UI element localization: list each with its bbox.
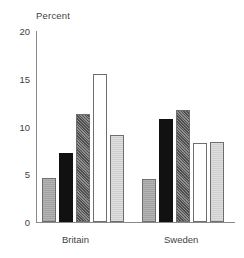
x-axis-line xyxy=(36,222,235,223)
bar-group-britain xyxy=(42,31,124,222)
y-tick-label-0: 0 xyxy=(25,217,30,228)
plot-area: 20 15 10 5 0 xyxy=(36,31,236,222)
bar-britain-series-5 xyxy=(110,135,124,222)
y-tick-label-15: 15 xyxy=(19,73,30,84)
bar-sweden-series-2 xyxy=(159,119,173,222)
bar-britain-series-1 xyxy=(42,178,56,222)
bar-sweden-series-1 xyxy=(142,179,156,222)
bar-chart: Percent 20 15 10 5 0 Britain Sweden xyxy=(0,0,244,258)
y-tick-label-5: 5 xyxy=(25,169,30,180)
x-axis-label-britain: Britain xyxy=(62,234,89,245)
y-tick-label-10: 10 xyxy=(19,121,30,132)
bar-britain-series-4 xyxy=(93,74,107,222)
bar-britain-series-3 xyxy=(76,114,90,222)
bar-sweden-series-4 xyxy=(193,143,207,222)
y-axis-title: Percent xyxy=(36,10,70,21)
bar-group-sweden xyxy=(142,31,224,222)
x-axis-label-sweden: Sweden xyxy=(164,234,198,245)
bar-sweden-series-3 xyxy=(176,110,190,222)
bar-britain-series-2 xyxy=(59,153,73,222)
y-tick-label-20: 20 xyxy=(19,26,30,37)
bar-sweden-series-5 xyxy=(210,142,224,222)
